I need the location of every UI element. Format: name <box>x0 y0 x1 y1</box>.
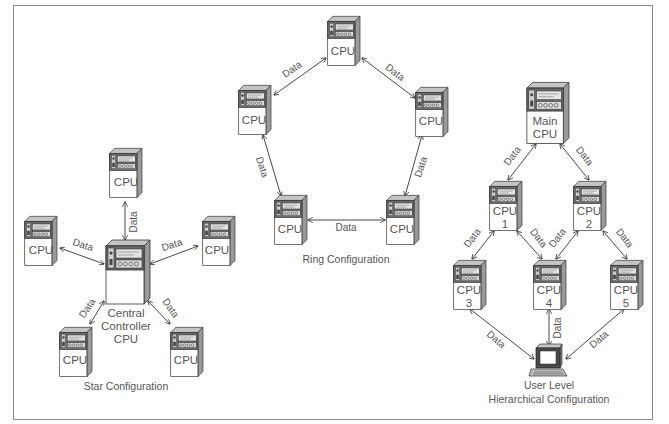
ring-cpu-upper-right: CPU <box>416 87 448 136</box>
central-label-line3: CPU <box>114 333 138 345</box>
cpu-label: CPU <box>63 354 87 366</box>
cpu-label: CPU <box>493 205 517 217</box>
central-label-line1: Central <box>107 307 144 319</box>
star-cpu-right: CPU <box>203 216 235 265</box>
central-label-line2: Controller <box>101 320 151 332</box>
cpu-label: CPU <box>419 115 443 127</box>
cpu-number: 3 <box>466 297 472 309</box>
data-label: Data <box>160 296 181 320</box>
data-label: Data <box>461 226 483 250</box>
ring-caption: Ring Configuration <box>303 253 390 265</box>
star-link-left <box>60 248 104 264</box>
cpu-label: CPU <box>331 45 355 57</box>
ring-cpu-lower-right: CPU <box>387 195 419 244</box>
hier-main-cpu: Main CPU <box>527 82 569 143</box>
data-label: Data <box>614 226 636 250</box>
cpu-number: 2 <box>586 218 592 230</box>
star-caption: Star Configuration <box>84 380 169 392</box>
main-cpu-line2: CPU <box>533 128 557 140</box>
cpu-number: 1 <box>502 218 508 230</box>
cpu-label: CPU <box>537 284 561 296</box>
hier-cpu-2: CPU 2 <box>574 181 606 230</box>
hier-link <box>470 309 534 359</box>
star-cpu-left: CPU <box>25 216 57 265</box>
data-label: Data <box>412 155 429 179</box>
cpu-label: CPU <box>205 244 229 256</box>
cpu-label: CPU <box>29 244 53 256</box>
star-cpu-top: CPU <box>110 148 142 197</box>
user-level-label: User Level <box>524 379 574 391</box>
ring-configuration: Data Data Data Data Data CPU CPU CPU CPU… <box>239 16 448 265</box>
data-label: Data <box>383 61 407 83</box>
data-label: Data <box>128 211 139 233</box>
user-terminal-icon <box>529 344 567 376</box>
hierarchical-configuration: Data Data Data Data Data Data Data Data … <box>454 82 643 405</box>
cpu-label: CPU <box>114 176 138 188</box>
cpu-label: CPU <box>457 284 481 296</box>
star-cpu-bottom-left: CPU <box>60 327 92 376</box>
star-configuration: Data Data Data Data Data CPU CPU CPU Cen… <box>25 148 235 392</box>
data-label: Data <box>71 236 95 253</box>
cpu-number: 5 <box>623 297 629 309</box>
data-label: Data <box>574 144 596 168</box>
data-label: Data <box>552 317 563 339</box>
data-label: Data <box>160 236 184 253</box>
cpu-label: CPU <box>242 114 266 126</box>
cpu-label: CPU <box>278 223 302 235</box>
ring-cpu-top: CPU <box>328 16 360 65</box>
cpu-label: CPU <box>614 284 638 296</box>
data-label: Data <box>485 328 509 350</box>
hierarchical-caption: Hierarchical Configuration <box>489 393 610 405</box>
network-configurations-diagram: Data Data Data Data Data CPU CPU CPU Cen… <box>0 0 669 424</box>
hier-cpu-5: CPU 5 <box>611 260 643 309</box>
hier-link <box>566 309 624 359</box>
cpu-label: CPU <box>390 223 414 235</box>
star-central-controller <box>106 240 150 304</box>
cpu-number: 4 <box>546 297 553 309</box>
hier-cpu-1: CPU 1 <box>490 181 522 230</box>
cpu-label: CPU <box>577 205 601 217</box>
hier-cpu-3: CPU 3 <box>454 260 486 309</box>
data-label: Data <box>587 328 611 350</box>
ring-cpu-lower-left: CPU <box>275 195 307 244</box>
cpu-label: CPU <box>174 354 198 366</box>
data-label: Data <box>254 155 271 179</box>
star-cpu-bottom-right: CPU <box>171 327 203 376</box>
ring-cpu-upper-left: CPU <box>239 85 271 134</box>
data-label: Data <box>546 226 568 250</box>
data-label: Data <box>335 222 357 233</box>
main-cpu-line1: Main <box>533 115 558 127</box>
hier-cpu-4: CPU 4 <box>534 260 566 309</box>
